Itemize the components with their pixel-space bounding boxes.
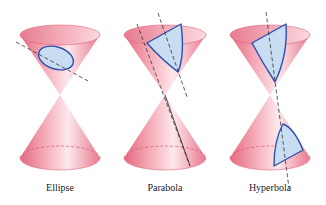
ellipse-cone <box>16 25 100 170</box>
hyperbola-label: Hyperbola <box>220 182 320 193</box>
parabola-label: Parabola <box>115 182 215 193</box>
parabola-cone <box>124 13 206 170</box>
conic-sections-diagram <box>0 0 326 205</box>
ellipse-label: Ellipse <box>10 182 110 193</box>
hyperbola-cone <box>230 12 310 188</box>
